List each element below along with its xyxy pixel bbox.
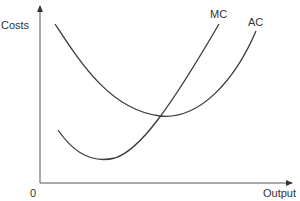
origin-label: 0 bbox=[30, 187, 36, 199]
ac-curve bbox=[55, 24, 256, 116]
ac-label: AC bbox=[248, 16, 263, 28]
cost-curves-diagram: Costs Output 0 MC AC bbox=[0, 0, 300, 201]
mc-curve bbox=[58, 24, 219, 159]
y-axis-label: Costs bbox=[1, 19, 30, 31]
x-axis-label: Output bbox=[263, 187, 296, 199]
mc-label: MC bbox=[210, 8, 227, 20]
